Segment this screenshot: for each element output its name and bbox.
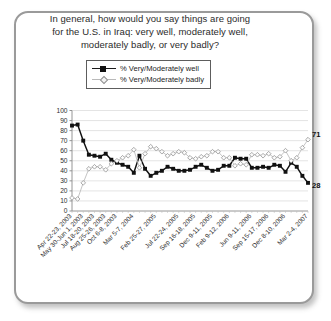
filled-square-marker-icon — [91, 64, 117, 74]
legend-label-badly: % Very/Moderately badly — [120, 75, 204, 84]
open-diamond-marker-icon — [91, 75, 117, 85]
legend-label-well: % Very/Moderately well — [120, 64, 199, 73]
chart-legend: % Very/Moderately well % Very/Moderately… — [86, 60, 211, 89]
legend-item-badly[interactable]: % Very/Moderately badly — [91, 74, 204, 85]
legend-item-well[interactable]: % Very/Moderately well — [91, 63, 204, 74]
chart-title-line-2: for the U.S. in Iraq: very well, moderat… — [18, 25, 282, 38]
chart-card — [14, 11, 314, 304]
chart-title-line-3: moderately badly, or very badly? — [18, 38, 282, 51]
chart-title: In general, how would you say things are… — [18, 12, 282, 52]
chart-title-line-1: In general, how would you say things are… — [18, 12, 282, 25]
